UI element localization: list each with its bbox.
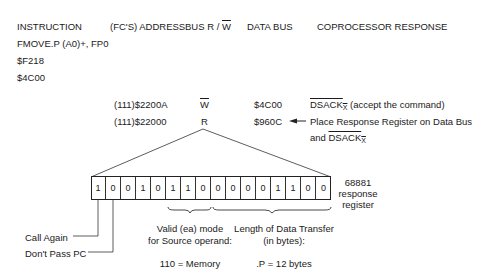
register-label-3: register bbox=[333, 200, 383, 210]
ea-mode-label-1: Valid (ea) mode bbox=[140, 224, 240, 234]
ea-mode-value: 110 = Memory bbox=[140, 259, 240, 269]
register-bit: 1 bbox=[166, 177, 181, 199]
register-label-2: response bbox=[333, 189, 383, 199]
register-bit: 0 bbox=[256, 177, 271, 199]
register-bit: 1 bbox=[91, 177, 106, 199]
length-label-2: (in bytes): bbox=[230, 236, 338, 246]
register-bit: 0 bbox=[316, 177, 331, 199]
register-bit: 1 bbox=[181, 177, 196, 199]
register-bit: 0 bbox=[301, 177, 316, 199]
register-bit: 0 bbox=[241, 177, 256, 199]
register-bit: 0 bbox=[121, 177, 136, 199]
call-again-label: Call Again bbox=[25, 233, 68, 243]
register-label-1: 68881 bbox=[338, 178, 378, 188]
register-bit: 0 bbox=[211, 177, 226, 199]
register-bit: 1 bbox=[286, 177, 301, 199]
register-bit: 0 bbox=[226, 177, 241, 199]
length-label-1: Length of Data Transfer bbox=[230, 224, 338, 234]
register-bit: 1 bbox=[136, 177, 151, 199]
length-value: .P = 12 bytes bbox=[230, 259, 338, 269]
register-bit: 0 bbox=[151, 177, 166, 199]
dont-pass-pc-label: Don't Pass PC bbox=[25, 249, 86, 259]
register-bit: 0 bbox=[196, 177, 211, 199]
ea-mode-label-2: for Source operand: bbox=[140, 236, 240, 246]
register-bit: 0 bbox=[106, 177, 121, 199]
register-bit: 1 bbox=[271, 177, 286, 199]
arrow-left-icon bbox=[289, 119, 297, 124]
